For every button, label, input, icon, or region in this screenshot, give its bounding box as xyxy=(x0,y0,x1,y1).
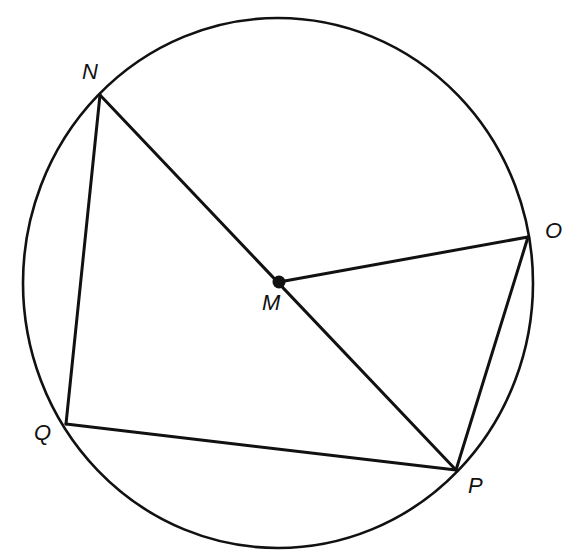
label-point-q: Q xyxy=(34,420,51,445)
circle-diagram: NOMPQ xyxy=(0,0,581,557)
segment-qp xyxy=(66,424,456,470)
label-point-n: N xyxy=(82,59,98,84)
segment-nq xyxy=(66,95,100,424)
segment-mo xyxy=(279,237,528,282)
segments xyxy=(66,95,528,470)
label-point-p: P xyxy=(468,473,483,498)
center-point-m xyxy=(273,276,286,289)
label-point-m: M xyxy=(262,290,281,315)
segment-op xyxy=(456,237,528,470)
label-point-o: O xyxy=(545,218,562,243)
